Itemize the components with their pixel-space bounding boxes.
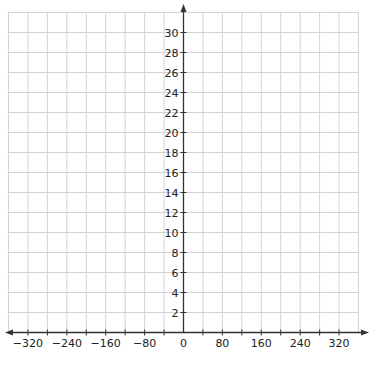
y-tick-label: 24: [165, 87, 179, 100]
y-tick-label: 28: [165, 47, 179, 60]
x-tick-label: 240: [290, 337, 311, 350]
axes: [5, 4, 369, 336]
y-tick-label: 12: [165, 207, 179, 220]
y-tick-label: 26: [165, 67, 179, 80]
y-tick-label: 2: [172, 307, 179, 320]
x-tick-label: 80: [215, 337, 229, 350]
y-tick-label: 10: [165, 227, 179, 240]
y-tick-label: 16: [165, 167, 179, 180]
y-tick-label: 8: [172, 247, 179, 260]
x-tick-label: 320: [329, 337, 350, 350]
x-axis-tick-labels: −320−240−160−80080160240320: [13, 337, 350, 350]
y-axis-tick-labels: 24681012141618202224262830: [165, 27, 179, 320]
x-tick-label: −320: [13, 337, 43, 350]
x-tick-label: −80: [133, 337, 156, 350]
y-tick-label: 30: [165, 27, 179, 40]
x-axis-right-arrow-icon: [361, 330, 369, 336]
y-tick-label: 18: [165, 147, 179, 160]
x-tick-label: −160: [91, 337, 121, 350]
y-tick-label: 6: [172, 267, 179, 280]
coordinate-grid-chart: −320−240−160−80080160240320 246810121416…: [0, 0, 373, 367]
x-tick-label: 160: [251, 337, 272, 350]
y-tick-label: 14: [165, 187, 179, 200]
y-tick-label: 20: [165, 127, 179, 140]
x-tick-label: −240: [52, 337, 82, 350]
y-tick-label: 4: [172, 287, 179, 300]
y-axis-up-arrow-icon: [181, 4, 187, 12]
y-tick-label: 22: [165, 107, 179, 120]
x-tick-label: 0: [180, 337, 187, 350]
